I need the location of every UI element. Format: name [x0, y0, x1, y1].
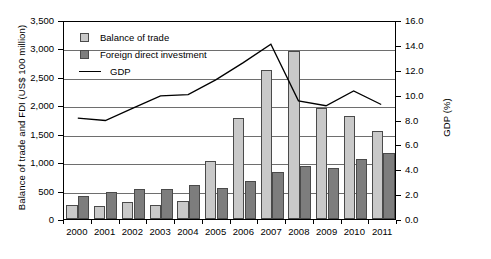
y-axis-right-tick	[396, 96, 401, 97]
y-axis-left-tick-label: 2,000	[6, 100, 54, 111]
x-axis-tick	[313, 220, 314, 224]
legend-item-balance-of-trade: Balance of trade	[80, 30, 207, 45]
y-axis-right-tick-label: 8.0	[405, 115, 418, 126]
x-axis-tick	[146, 220, 147, 224]
y-axis-right-tick	[396, 121, 401, 122]
y-axis-left-tick-label: 2,500	[6, 72, 54, 83]
y-axis-left-tick-label: 3,000	[6, 43, 54, 54]
x-axis-tick	[257, 220, 258, 224]
y-axis-right-tick	[396, 195, 401, 196]
y-axis-right-tick-label: 6.0	[405, 139, 418, 150]
legend-swatch-square-dark-icon	[80, 50, 89, 59]
y-axis-left-tick-label: 500	[6, 186, 54, 197]
x-axis-tick	[368, 220, 369, 224]
y-axis-left-tick-label: 0	[6, 214, 54, 225]
y-axis-right-tick	[396, 21, 401, 22]
y-axis-left-tick-label: 3,500	[6, 15, 54, 26]
chart-container: Balance of trade and FDI (US$ 100 millio…	[0, 0, 491, 259]
legend-label: Balance of trade	[100, 32, 169, 43]
x-axis-tick-label: 2011	[362, 226, 402, 237]
y-axis-right-tick-label: 12.0	[405, 65, 424, 76]
y-axis-left-title: Balance of trade and FDI (US$ 100 millio…	[16, 3, 27, 233]
x-axis-tick	[341, 220, 342, 224]
x-axis-tick	[285, 220, 286, 224]
y-axis-right-title: GDP (%)	[441, 58, 452, 178]
x-axis-tick	[63, 220, 64, 224]
x-axis-tick	[174, 220, 175, 224]
y-axis-left-tick-label: 1,500	[6, 129, 54, 140]
x-axis-tick	[396, 220, 397, 224]
legend-item-gdp: GDP	[80, 64, 207, 79]
y-axis-right-tick-label: 4.0	[405, 164, 418, 175]
legend-label: GDP	[110, 66, 131, 77]
legend-item-foreign-direct-investment: Foreign direct investment	[80, 47, 207, 62]
y-axis-right-tick	[396, 145, 401, 146]
y-axis-right-tick	[396, 170, 401, 171]
y-axis-left-tick-label: 1,000	[6, 157, 54, 168]
y-axis-right-tick-label: 14.0	[405, 40, 424, 51]
x-axis-tick	[202, 220, 203, 224]
legend-swatch-line-icon	[79, 71, 101, 72]
legend-label: Foreign direct investment	[100, 49, 207, 60]
x-axis-tick	[230, 220, 231, 224]
y-axis-right-tick	[396, 71, 401, 72]
x-axis-tick	[91, 220, 92, 224]
y-axis-right-tick-label: 0.0	[405, 214, 418, 225]
y-axis-right-tick-label: 2.0	[405, 189, 418, 200]
y-axis-right-tick	[396, 46, 401, 47]
legend-swatch-square-light-icon	[80, 33, 89, 42]
x-axis-tick	[119, 220, 120, 224]
y-axis-right-tick-label: 16.0	[405, 15, 424, 26]
y-axis-right-tick-label: 10.0	[405, 90, 424, 101]
chart-legend: Balance of trade Foreign direct investme…	[80, 30, 207, 81]
